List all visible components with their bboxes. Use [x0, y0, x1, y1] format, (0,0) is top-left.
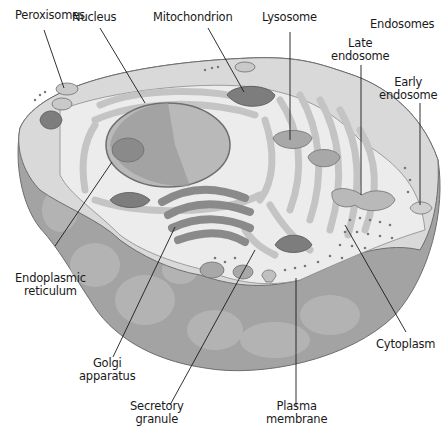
label-plasma-line2: membrane: [266, 413, 327, 426]
label-secretory-granule: Secretory granule: [130, 400, 184, 426]
label-mitochondrion: Mitochondrion: [153, 11, 233, 24]
label-er-line2: reticulum: [15, 285, 86, 298]
label-lysosome: Lysosome: [262, 11, 317, 24]
label-late-endosome-line2: endosome: [331, 50, 389, 63]
label-early-endosome: Early endosome: [379, 76, 437, 102]
label-cytoplasm: Cytoplasm: [376, 338, 435, 351]
label-secretory-line2: granule: [130, 413, 184, 426]
nucleus: [106, 103, 230, 187]
early-endosome: [410, 202, 432, 214]
label-endosomes: Endosomes: [370, 18, 434, 31]
label-plasma-membrane: Plasma membrane: [266, 400, 327, 426]
label-golgi-line2: apparatus: [79, 370, 135, 383]
label-late-endosome: Late endosome: [331, 37, 389, 63]
label-golgi-apparatus: Golgi apparatus: [79, 357, 135, 383]
label-nucleus: Nucleus: [72, 11, 116, 24]
cell-diagram: [0, 0, 446, 435]
label-early-endosome-line2: endosome: [379, 89, 437, 102]
label-endoplasmic-reticulum: Endoplasmic reticulum: [15, 272, 86, 298]
